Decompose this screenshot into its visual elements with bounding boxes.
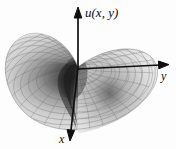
- surface-plot-figure: u(x, y) y x: [0, 0, 176, 149]
- u-axis-arrowhead: [74, 7, 82, 18]
- surface-plot-canvas: [0, 0, 176, 149]
- x-axis-label: x: [59, 133, 64, 145]
- x-axis-arrowhead: [67, 130, 75, 141]
- u-axis-label-close: ): [114, 5, 118, 20]
- y-axis-arrowhead: [158, 61, 169, 69]
- u-axis-label: u(x, y): [85, 6, 118, 19]
- y-axis-label: y: [161, 70, 166, 82]
